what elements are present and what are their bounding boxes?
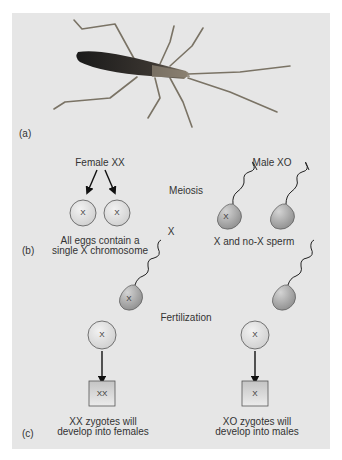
panel-c-label: (c) — [22, 428, 34, 439]
meiosis-label: Meiosis — [169, 185, 203, 196]
insect-illustration — [54, 20, 290, 127]
sperm-chromosome-x: X — [223, 212, 228, 221]
left-sperm-chromosome: X — [126, 294, 131, 303]
cross-symbol: X — [168, 226, 175, 237]
left-egg-chromosome: X — [99, 330, 104, 339]
panel-a-label: (a) — [19, 128, 31, 139]
eggs-caption: All eggs contain a single X chromosome — [52, 236, 148, 256]
zygote-male-label: X — [252, 389, 257, 398]
male-xo-title: Male XO — [253, 157, 292, 168]
fertilizing-sperm-no-x — [272, 240, 314, 310]
sperm-caption: X and no-X sperm — [214, 236, 295, 247]
male-zygote-caption: XO zygotes will develop into males — [215, 417, 298, 437]
fertilization-label: Fertilization — [160, 312, 211, 323]
right-egg-chromosome: X — [252, 330, 257, 339]
sperm-cell-no-x — [270, 162, 309, 229]
panel-b-label: (b) — [22, 245, 34, 256]
female-zygote-caption: XX zygotes will develop into females — [57, 417, 149, 437]
zygote-female-label: XX — [97, 389, 108, 398]
female-xx-title: Female XX — [75, 157, 124, 168]
egg-chromosome-x: X — [114, 208, 119, 217]
egg-chromosome-x: X — [80, 208, 85, 217]
